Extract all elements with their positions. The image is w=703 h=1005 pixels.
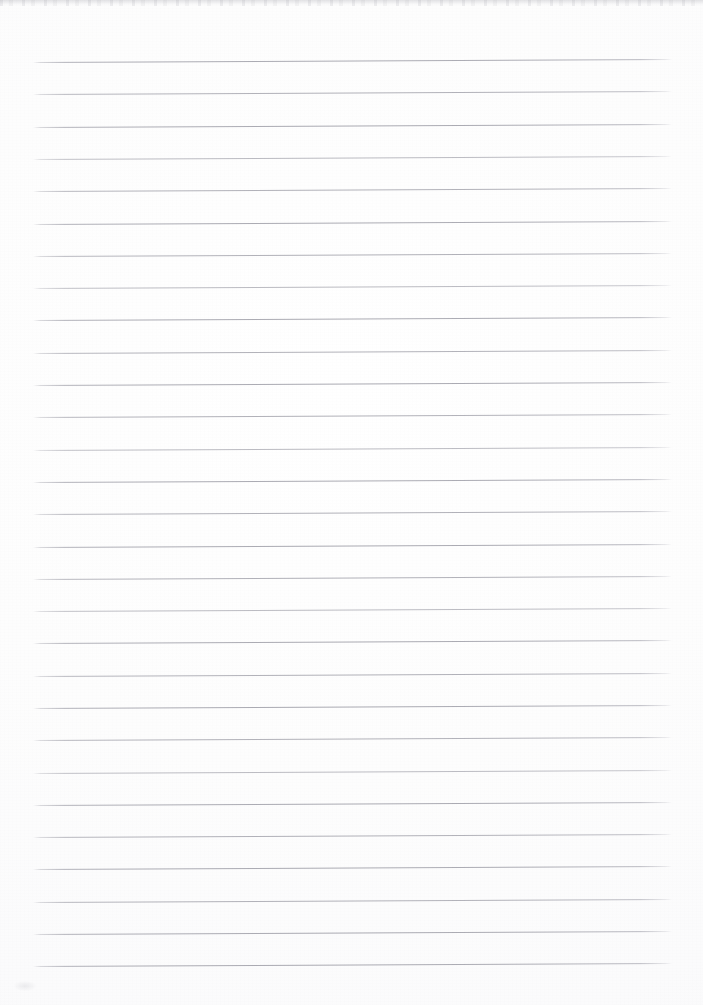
scanned-page bbox=[0, 0, 703, 1005]
page-content-area bbox=[0, 0, 703, 1005]
